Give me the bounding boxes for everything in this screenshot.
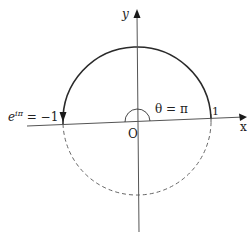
- euler-identity-label: eiπ = −1: [8, 110, 58, 123]
- y-axis-label: y: [122, 8, 129, 20]
- euler-rhs: = −1: [23, 110, 58, 124]
- arc-arrowhead-icon: [60, 112, 67, 122]
- euler-exponent: iπ: [15, 109, 23, 118]
- diagram-canvas: [0, 0, 251, 249]
- y-axis-arrow-icon: [134, 9, 141, 18]
- x-axis-label: x: [240, 121, 247, 133]
- point-one-label: 1: [212, 106, 219, 117]
- origin-label: O: [128, 128, 138, 140]
- figure-caption: [0, 243, 251, 249]
- angle-label: θ = π: [155, 103, 188, 115]
